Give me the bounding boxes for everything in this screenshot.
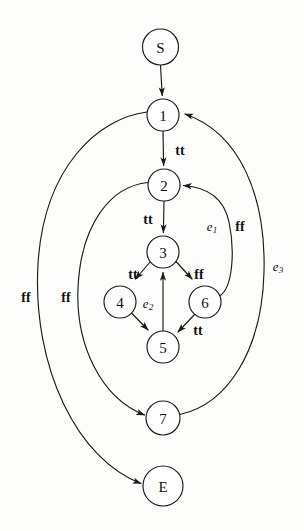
edge-label-2-7: ff (61, 290, 71, 305)
edge-6-5 (178, 315, 195, 333)
flow-graph-canvas: S 1 2 3 4 6 5 7 E tt tt tt ff tt ff ff f… (0, 0, 304, 531)
edge-2-3 (163, 201, 164, 233)
edge-4-5 (132, 313, 149, 330)
edge-label-e2: e2 (143, 296, 154, 313)
node-6-label: 6 (201, 295, 209, 311)
edge-7-1 (180, 114, 264, 415)
node-4-label: 4 (116, 295, 124, 311)
node-3-label: 3 (159, 245, 167, 261)
node-2-label: 2 (160, 178, 168, 194)
edge-S-1 (161, 65, 163, 96)
node-1-label: 1 (159, 108, 167, 124)
edge-label-2-3: tt (143, 212, 153, 227)
edge-label-6-5: tt (193, 323, 203, 338)
edge-label-1-E: ff (21, 290, 31, 305)
control-flow-diagram: S 1 2 3 4 6 5 7 E tt tt tt ff tt ff ff f… (0, 0, 304, 531)
edge-label-3-6: ff (194, 267, 204, 282)
e1-subscript: 1 (213, 225, 218, 235)
edge-3-4 (136, 262, 151, 280)
edge-6-2 (184, 186, 233, 297)
e2-subscript: 2 (149, 302, 154, 312)
edge-3-6 (176, 262, 192, 280)
e3-subscript: 3 (278, 265, 284, 275)
edge-1-2 (163, 131, 164, 166)
node-S-label: S (156, 40, 164, 56)
edge-label-1-2: tt (175, 143, 185, 158)
edge-label-3-4: tt (128, 267, 138, 282)
edge-label-e3: e3 (273, 259, 284, 276)
edge-label-6-2-ff: ff (235, 219, 245, 234)
node-5-label: 5 (159, 340, 167, 356)
node-E-label: E (158, 479, 167, 495)
edge-label-e1: e1 (207, 219, 217, 236)
node-7-label: 7 (159, 411, 167, 427)
